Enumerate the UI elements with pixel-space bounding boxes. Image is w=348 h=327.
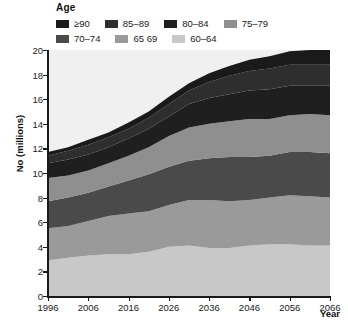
legend-item[interactable]: 60–64: [172, 34, 216, 44]
y-tick-mark: [43, 247, 47, 248]
x-tick-mark: [48, 297, 49, 301]
x-tick-label: 2056: [279, 302, 300, 313]
legend-swatch-icon: [164, 20, 177, 28]
x-tick-label: 2066: [319, 302, 340, 313]
x-tick-label: 2036: [199, 302, 220, 313]
chart-page: Age ≥9085–8980–8475–79 70–7465 6960–64 N…: [0, 0, 348, 327]
y-tick-mark: [43, 99, 47, 100]
legend-row-2: 70–7465 6960–64: [56, 32, 342, 45]
y-tick-label: 18: [32, 69, 43, 80]
stacked-area-svg: [48, 50, 330, 296]
y-tick-label: 8: [38, 192, 43, 203]
y-tick-mark: [43, 75, 47, 76]
legend-row-1: ≥9085–8980–8475–79: [56, 17, 342, 30]
plot-region: [48, 50, 330, 296]
x-tick-label: 1996: [37, 302, 58, 313]
y-tick-label: 0: [38, 291, 43, 302]
legend-item-label: 80–84: [182, 19, 208, 29]
legend-item-label: 70–74: [74, 34, 100, 44]
legend-swatch-icon: [172, 35, 185, 43]
x-tick-label: 2006: [78, 302, 99, 313]
legend-item-label: ≥90: [74, 19, 90, 29]
x-tick-label: 2046: [239, 302, 260, 313]
legend-swatch-icon: [224, 20, 237, 28]
y-tick-label: 12: [32, 143, 43, 154]
y-tick-mark: [43, 296, 47, 297]
y-tick-label: 14: [32, 118, 43, 129]
x-tick-label: 2016: [118, 302, 139, 313]
legend-item-label: 60–64: [190, 34, 216, 44]
legend-swatch-icon: [105, 20, 118, 28]
x-axis-line: [47, 296, 331, 298]
x-tick-mark: [129, 297, 130, 301]
y-tick-label: 10: [32, 168, 43, 179]
y-axis-line: [47, 50, 49, 297]
y-tick-mark: [43, 50, 47, 51]
x-tick-mark: [290, 297, 291, 301]
y-tick-label: 2: [38, 266, 43, 277]
y-tick-label: 6: [38, 217, 43, 228]
legend-item-label: 75–79: [242, 19, 268, 29]
legend-item[interactable]: 75–79: [224, 19, 268, 29]
y-tick-mark: [43, 173, 47, 174]
legend-title: Age: [56, 2, 342, 14]
x-tick-label: 2026: [158, 302, 179, 313]
y-tick-mark: [43, 222, 47, 223]
legend-swatch-icon: [56, 35, 69, 43]
legend-item[interactable]: 70–74: [56, 34, 100, 44]
legend-item[interactable]: 80–84: [164, 19, 208, 29]
legend-item-label: 65 69: [133, 34, 157, 44]
x-tick-mark: [209, 297, 210, 301]
x-tick-mark: [169, 297, 170, 301]
y-tick-label: 16: [32, 94, 43, 105]
x-tick-mark: [88, 297, 89, 301]
chart-area: No (millions) Year 02468101214161820 199…: [0, 46, 348, 327]
y-tick-mark: [43, 148, 47, 149]
y-tick-label: 20: [32, 45, 43, 56]
y-tick-mark: [43, 271, 47, 272]
legend-item-label: 85–89: [123, 19, 149, 29]
y-axis-label: No (millions): [14, 109, 25, 179]
legend-item[interactable]: 85–89: [105, 19, 149, 29]
y-tick-label: 4: [38, 241, 43, 252]
x-tick-mark: [330, 297, 331, 301]
legend-swatch-icon: [115, 35, 128, 43]
legend: Age ≥9085–8980–8475–79 70–7465 6960–64: [56, 2, 342, 47]
y-tick-mark: [43, 124, 47, 125]
legend-swatch-icon: [56, 20, 69, 28]
x-tick-mark: [249, 297, 250, 301]
legend-item[interactable]: ≥90: [56, 19, 90, 29]
legend-item[interactable]: 65 69: [115, 34, 157, 44]
y-tick-mark: [43, 198, 47, 199]
